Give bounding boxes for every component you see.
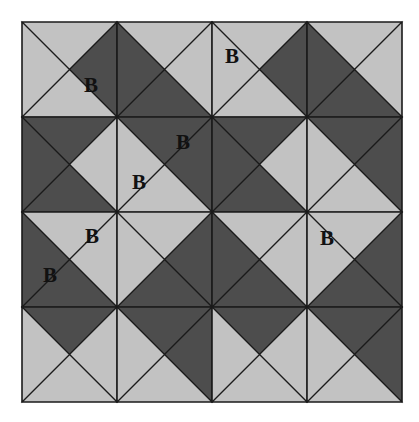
quilt-pattern-svg: BBBBBBB: [0, 0, 419, 422]
quilt-pattern-figure: BBBBBBB: [0, 0, 419, 422]
triangle-label-b-4: B: [132, 170, 146, 194]
triangle-label-b-1: B: [84, 73, 98, 97]
triangle-label-b-7: B: [320, 226, 334, 250]
triangle-label-b-6: B: [43, 263, 57, 287]
triangle-label-b-3: B: [176, 130, 190, 154]
triangle-label-b-2: B: [225, 44, 239, 68]
triangle-label-b-5: B: [85, 224, 99, 248]
